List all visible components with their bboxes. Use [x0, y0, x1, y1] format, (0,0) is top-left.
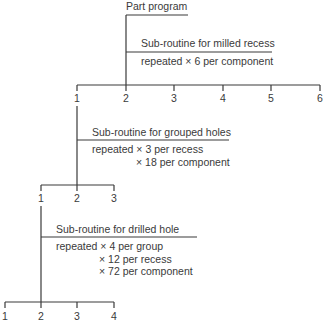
grouped-holes-repeat-2: × 18 per component [136, 156, 230, 168]
level-2-branch-bar: 1 2 3 [38, 185, 117, 204]
level-1-child-4: 4 [220, 92, 226, 104]
drilled-hole-repeat-1: repeated × 4 per group [56, 240, 163, 252]
level-3-child-3: 3 [74, 310, 80, 322]
level-2-child-1: 1 [38, 192, 44, 204]
level-2-child-3: 3 [111, 192, 117, 204]
grouped-holes-subroutine: Sub-routine for grouped holes repeated ×… [77, 126, 231, 168]
level-3-child-1: 1 [2, 310, 8, 322]
grouped-holes-repeat-1: repeated × 3 per recess [92, 143, 203, 155]
drilled-hole-title: Sub-routine for drilled hole [56, 223, 179, 235]
level-1-child-5: 5 [268, 92, 274, 104]
grouped-holes-title: Sub-routine for grouped holes [92, 126, 231, 138]
level-1-child-3: 3 [171, 92, 177, 104]
milled-recess-title: Sub-routine for milled recess [141, 37, 275, 49]
level-1-child-1: 1 [74, 92, 80, 104]
level-1-child-2: 2 [123, 92, 129, 104]
drilled-hole-subroutine: Sub-routine for drilled hole repeated × … [41, 223, 197, 277]
level-1-child-6: 6 [317, 92, 323, 104]
level-3-child-2: 2 [38, 310, 44, 322]
part-program-node: Part program [126, 0, 188, 15]
milled-recess-subroutine: Sub-routine for milled recess repeated ×… [126, 37, 275, 67]
drilled-hole-repeat-2: × 12 per recess [99, 253, 172, 265]
level-3-branch-bar: 1 2 3 4 [2, 302, 117, 322]
milled-recess-repeat-1: repeated × 6 per component [141, 55, 273, 67]
part-program-label: Part program [126, 0, 188, 12]
drilled-hole-repeat-3: × 72 per component [99, 265, 193, 277]
level-2-child-2: 2 [74, 192, 80, 204]
level-1-branch-bar: 1 2 3 4 5 6 [74, 85, 323, 104]
subroutine-hierarchy-diagram: Part program Sub-routine for milled rece… [0, 0, 328, 331]
level-3-child-4: 4 [111, 310, 117, 322]
